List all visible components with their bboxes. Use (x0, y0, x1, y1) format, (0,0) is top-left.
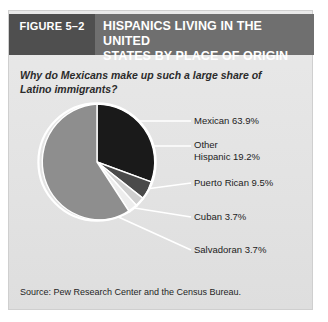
subtitle-question: Why do Mexicans make up such a large sha… (20, 68, 270, 96)
pie-label-other-hispanic: Other Hispanic 19.2% (194, 139, 260, 162)
leader-line-salvadoran (114, 215, 191, 250)
pie-chart-area: Mexican 63.9% Other Hispanic 19.2% Puert… (9, 99, 314, 274)
pie-label-puerto-rican: Puerto Rican 9.5% (194, 177, 273, 189)
figure-number-block: FIGURE 5–2 (9, 14, 95, 55)
figure-title-block: HISPANICS LIVING IN THE UNITED STATES BY… (95, 14, 314, 55)
figure-title-line-1: HISPANICS LIVING IN THE UNITED (103, 19, 308, 49)
pie-label-cuban: Cuban 3.7% (194, 211, 246, 223)
figure-title: HISPANICS LIVING IN THE UNITED STATES BY… (103, 19, 308, 64)
figure-header-bar: FIGURE 5–2 HISPANICS LIVING IN THE UNITE… (9, 14, 314, 55)
source-note: Source: Pew Research Center and the Cens… (20, 287, 241, 297)
figure-number-label: FIGURE 5–2 (20, 20, 85, 32)
figure-title-line-2: STATES BY PLACE OF ORIGIN (103, 49, 308, 64)
pie-label-salvadoran: Salvadoran 3.7% (194, 244, 266, 256)
figure-card: FIGURE 5–2 HISPANICS LIVING IN THE UNITE… (8, 10, 313, 310)
pie-label-mexican: Mexican 63.9% (194, 115, 259, 127)
